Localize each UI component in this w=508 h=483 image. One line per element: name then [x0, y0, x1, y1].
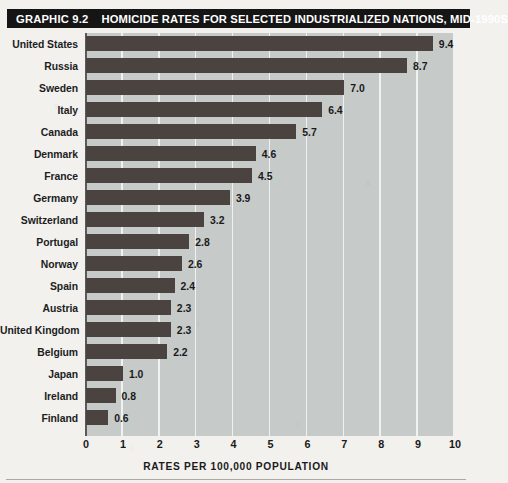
category-label: Italy: [0, 105, 78, 116]
bar-value-label: 5.7: [302, 127, 316, 138]
bar-row: Canada5.7: [0, 121, 472, 143]
bar: [86, 278, 175, 293]
bar-value-label: 0.6: [114, 413, 128, 424]
bar-value-label: 0.8: [122, 391, 136, 402]
bar-row: United Kingdom2.3: [0, 319, 472, 341]
bar-chart: United States9.4Russia8.7Sweden7.0Italy6…: [0, 33, 472, 438]
page-title: HOMICIDE RATES FOR SELECTED INDUSTRIALIZ…: [88, 13, 508, 25]
bar-value-label: 3.2: [210, 215, 224, 226]
bar-row: Russia8.7: [0, 55, 472, 77]
category-label: Denmark: [0, 149, 78, 160]
bar: [86, 102, 322, 117]
bar: [86, 190, 230, 205]
bar-row: Belgium2.2: [0, 341, 472, 363]
bar-row: Ireland0.8: [0, 385, 472, 407]
bar-row: United States9.4: [0, 33, 472, 55]
category-label: United Kingdom: [0, 325, 78, 336]
bar-value-label: 6.4: [328, 105, 342, 116]
x-tick-label: 6: [304, 438, 310, 450]
x-tick-label: 3: [194, 438, 200, 450]
category-label: Belgium: [0, 347, 78, 358]
category-label: Russia: [0, 61, 78, 72]
bar-value-label: 7.0: [350, 83, 364, 94]
x-tick-label: 8: [378, 438, 384, 450]
bar: [86, 80, 344, 95]
bar-row: Austria2.3: [0, 297, 472, 319]
bar-value-label: 2.3: [177, 303, 191, 314]
bar: [86, 256, 182, 271]
bar-row: Germany3.9: [0, 187, 472, 209]
category-label: Switzerland: [0, 215, 78, 226]
bar: [86, 234, 189, 249]
bar-value-label: 4.6: [262, 149, 276, 160]
bar: [86, 168, 252, 183]
bar: [86, 322, 171, 337]
bar-value-label: 4.5: [258, 171, 272, 182]
category-label: United States: [0, 39, 78, 50]
bar-row: Finland0.6: [0, 407, 472, 429]
bar-value-label: 9.4: [439, 39, 453, 50]
bar-value-label: 2.4: [181, 281, 195, 292]
bar-value-label: 2.8: [195, 237, 209, 248]
x-axis-title: RATES PER 100,000 POPULATION: [0, 461, 472, 472]
bar: [86, 58, 407, 73]
category-label: Germany: [0, 193, 78, 204]
x-tick-label: 5: [267, 438, 273, 450]
x-tick-label: 9: [415, 438, 421, 450]
x-tick-label: 10: [449, 438, 461, 450]
bar-value-label: 1.0: [129, 369, 143, 380]
bar-row: France4.5: [0, 165, 472, 187]
category-label: Ireland: [0, 391, 78, 402]
bar-value-label: 2.2: [173, 347, 187, 358]
category-label: Finland: [0, 413, 78, 424]
bar-row: Denmark4.6: [0, 143, 472, 165]
bar: [86, 388, 116, 403]
category-label: Japan: [0, 369, 78, 380]
category-label: France: [0, 171, 78, 182]
bar-row: Switzerland3.2: [0, 209, 472, 231]
bar-row: Japan1.0: [0, 363, 472, 385]
graphic-number-label: GRAPHIC 9.2: [7, 13, 88, 25]
bar: [86, 366, 123, 381]
bar-row: Norway2.6: [0, 253, 472, 275]
bar: [86, 410, 108, 425]
bar: [86, 212, 204, 227]
bar: [86, 146, 256, 161]
category-label: Portugal: [0, 237, 78, 248]
category-label: Norway: [0, 259, 78, 270]
category-label: Spain: [0, 281, 78, 292]
x-tick-label: 4: [231, 438, 237, 450]
category-label: Austria: [0, 303, 78, 314]
bar-value-label: 2.6: [188, 259, 202, 270]
x-tick-label: 0: [83, 438, 89, 450]
category-label: Sweden: [0, 83, 78, 94]
bar-row: Portugal2.8: [0, 231, 472, 253]
x-tick-label: 7: [341, 438, 347, 450]
bar-row: Spain2.4: [0, 275, 472, 297]
x-tick-label: 2: [157, 438, 163, 450]
bar-value-label: 2.3: [177, 325, 191, 336]
bar-value-label: 8.7: [413, 61, 427, 72]
x-tick-label: 1: [120, 438, 126, 450]
category-label: Canada: [0, 127, 78, 138]
graphic-title-band: GRAPHIC 9.2 HOMICIDE RATES FOR SELECTED …: [7, 9, 470, 28]
x-axis-ticks: 012345678910: [0, 438, 472, 458]
bar: [86, 36, 433, 51]
bottom-divider: [6, 479, 466, 480]
bar-row: Italy6.4: [0, 99, 472, 121]
bar-row: Sweden7.0: [0, 77, 472, 99]
bar-rows: United States9.4Russia8.7Sweden7.0Italy6…: [0, 33, 472, 429]
bar-value-label: 3.9: [236, 193, 250, 204]
bar: [86, 124, 296, 139]
bar: [86, 344, 167, 359]
bar: [86, 300, 171, 315]
